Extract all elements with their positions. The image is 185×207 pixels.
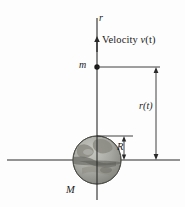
radius-label: R bbox=[117, 142, 124, 153]
physics-diagram-gravitational-radial-motion: r Velocity v(t) m r(t) R M bbox=[0, 0, 185, 207]
central-mass-label: M bbox=[66, 185, 75, 196]
distance-label: r(t) bbox=[139, 101, 153, 111]
r-axis-label: r bbox=[99, 13, 103, 23]
velocity-label-prefix: Velocity bbox=[102, 34, 141, 45]
distance-dimension-line bbox=[154, 67, 159, 160]
velocity-label-arg: (t) bbox=[145, 34, 155, 45]
velocity-label: Velocity v(t) bbox=[102, 35, 156, 46]
diagram-canvas bbox=[0, 0, 185, 207]
point-mass-label: m bbox=[79, 60, 86, 70]
velocity-arrow bbox=[94, 36, 100, 52]
